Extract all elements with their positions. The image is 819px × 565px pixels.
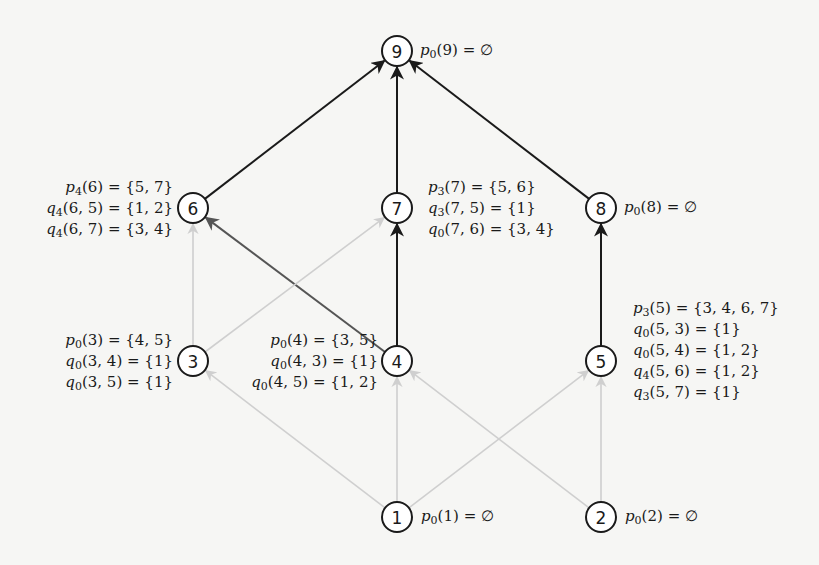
annotation-line: q0(4, 3) = {1} bbox=[251, 351, 378, 372]
annotation-line: p0(9) = ∅ bbox=[420, 40, 493, 61]
annotation-line: q0(5, 4) = {1, 2} bbox=[633, 340, 779, 361]
node-5: 5 bbox=[586, 346, 616, 376]
node-4: 4 bbox=[382, 346, 412, 376]
annotation-line: p3(7) = {5, 6} bbox=[428, 177, 555, 198]
annotation-line: p0(3) = {4, 5} bbox=[65, 330, 173, 351]
node-label: 3 bbox=[188, 352, 199, 372]
annotation-line: q0(7, 6) = {3, 4} bbox=[428, 219, 555, 240]
node-label: 6 bbox=[188, 199, 199, 219]
node-label: 5 bbox=[596, 352, 607, 372]
graph-canvas: 967834512 bbox=[0, 0, 819, 565]
edge-layer bbox=[193, 61, 601, 508]
annotation-line: q0(4, 5) = {1, 2} bbox=[251, 372, 378, 393]
annotation-node-5: p3(5) = {3, 4, 6, 7}q0(5, 3) = {1}q0(5, … bbox=[633, 298, 779, 403]
node-7: 7 bbox=[382, 193, 412, 223]
node-1: 1 bbox=[382, 502, 412, 532]
node-label: 1 bbox=[392, 508, 403, 528]
node-2: 2 bbox=[586, 502, 616, 532]
annotation-node-7: p3(7) = {5, 6}q3(7, 5) = {1}q0(7, 6) = {… bbox=[428, 177, 555, 240]
node-label: 9 bbox=[392, 42, 403, 62]
annotation-line: p0(4) = {3, 5} bbox=[251, 330, 378, 351]
annotation-line: q0(3, 4) = {1} bbox=[65, 351, 173, 372]
annotation-line: p0(1) = ∅ bbox=[421, 506, 494, 527]
annotation-node-3: p0(3) = {4, 5}q0(3, 4) = {1}q0(3, 5) = {… bbox=[65, 330, 173, 393]
annotation-node-9: p0(9) = ∅ bbox=[420, 40, 493, 61]
annotation-line: q0(3, 5) = {1} bbox=[65, 372, 173, 393]
node-8: 8 bbox=[586, 193, 616, 223]
node-6: 6 bbox=[178, 193, 208, 223]
annotation-line: p0(8) = ∅ bbox=[624, 197, 697, 218]
annotation-line: q4(6, 5) = {1, 2} bbox=[46, 198, 173, 219]
node-9: 9 bbox=[382, 36, 412, 66]
annotation-line: q0(5, 3) = {1} bbox=[633, 319, 779, 340]
node-label: 8 bbox=[596, 199, 607, 219]
annotation-line: q4(6, 7) = {3, 4} bbox=[46, 219, 173, 240]
annotation-line: q4(5, 6) = {1, 2} bbox=[633, 361, 779, 382]
node-3: 3 bbox=[178, 346, 208, 376]
annotation-line: q3(5, 7) = {1} bbox=[633, 382, 779, 403]
annotation-node-4: p0(4) = {3, 5}q0(4, 3) = {1}q0(4, 5) = {… bbox=[251, 330, 378, 393]
node-label: 7 bbox=[392, 199, 403, 219]
annotation-node-1: p0(1) = ∅ bbox=[421, 506, 494, 527]
annotation-node-6: p4(6) = {5, 7}q4(6, 5) = {1, 2}q4(6, 7) … bbox=[46, 177, 173, 240]
node-label: 4 bbox=[392, 352, 403, 372]
annotation-line: p3(5) = {3, 4, 6, 7} bbox=[633, 298, 779, 319]
annotation-line: p0(2) = ∅ bbox=[625, 506, 698, 527]
annotation-line: p4(6) = {5, 7} bbox=[46, 177, 173, 198]
annotation-node-2: p0(2) = ∅ bbox=[625, 506, 698, 527]
node-label: 2 bbox=[596, 508, 607, 528]
annotation-node-8: p0(8) = ∅ bbox=[624, 197, 697, 218]
annotation-line: q3(7, 5) = {1} bbox=[428, 198, 555, 219]
edge-6-to-9 bbox=[205, 61, 384, 199]
